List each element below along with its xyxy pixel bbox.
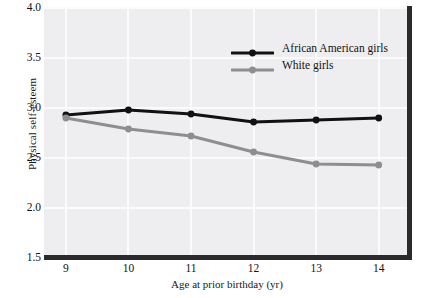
data-point-marker <box>313 117 320 124</box>
data-point-marker <box>375 162 382 169</box>
data-point-marker <box>313 161 320 168</box>
data-point-marker <box>188 111 195 118</box>
series-2 <box>62 115 382 169</box>
legend-item[interactable]: African American girls <box>231 41 411 58</box>
data-point-marker <box>125 126 132 133</box>
legend-line-marker-icon <box>231 61 274 71</box>
legend-line-marker-icon <box>231 44 274 54</box>
data-point-marker <box>62 115 69 122</box>
data-point-marker <box>250 119 257 126</box>
data-point-marker <box>125 107 132 114</box>
legend-label: White girls <box>282 58 333 73</box>
legend-label: African American girls <box>282 41 388 56</box>
series-line <box>66 110 379 122</box>
data-point-marker <box>188 133 195 140</box>
data-point-marker <box>375 115 382 122</box>
series-1 <box>62 107 382 126</box>
data-point-marker <box>250 149 257 156</box>
chart-figure: 1.52.02.53.03.54.0 91011121314 Physical … <box>0 0 431 298</box>
legend-item[interactable]: White girls <box>231 58 411 75</box>
series-line <box>66 118 379 165</box>
chart-legend: African American girlsWhite girls <box>231 41 411 75</box>
